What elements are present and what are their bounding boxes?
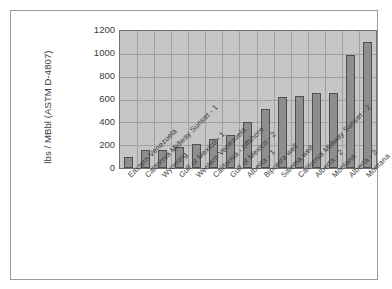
y-tick-label: 800: [81, 71, 115, 81]
y-axis-tick-labels: 1200 1000 800 600 400 200 0: [77, 11, 115, 289]
y-tick-label: 1200: [81, 25, 115, 35]
x-axis-tick-labels: Eastern VenezuelaCalifornia Midway Sunse…: [119, 171, 377, 289]
y-tick-label: 600: [81, 94, 115, 104]
y-tick-label: 1000: [81, 48, 115, 58]
y-tick-label: 200: [81, 140, 115, 150]
chart-figure: lbs / MBbl (ASTM D-4807) 1200 1000 800 6…: [10, 10, 378, 280]
y-tick-label: 0: [81, 163, 115, 173]
y-tick-label: 400: [81, 117, 115, 127]
y-axis-title: lbs / MBbl (ASTM D-4807): [41, 36, 55, 178]
